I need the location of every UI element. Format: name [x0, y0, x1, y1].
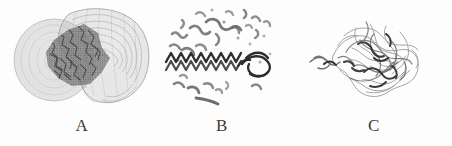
figure-panel-group: A — [0, 0, 452, 146]
panel-a-image — [6, 0, 158, 116]
panel-a: A — [6, 0, 158, 146]
panel-c: C — [300, 0, 448, 146]
panel-b: B — [160, 0, 284, 146]
alpha-helix-coil — [166, 53, 241, 70]
panel-c-label: C — [300, 116, 448, 136]
panel-b-label: B — [160, 116, 284, 136]
scattered-fragments — [170, 10, 270, 55]
lower-fragments — [174, 75, 261, 104]
helix-turn-loop — [238, 53, 270, 77]
panel-b-image — [160, 0, 284, 116]
panel-a-label: A — [6, 116, 158, 136]
panel-c-image — [300, 0, 448, 116]
